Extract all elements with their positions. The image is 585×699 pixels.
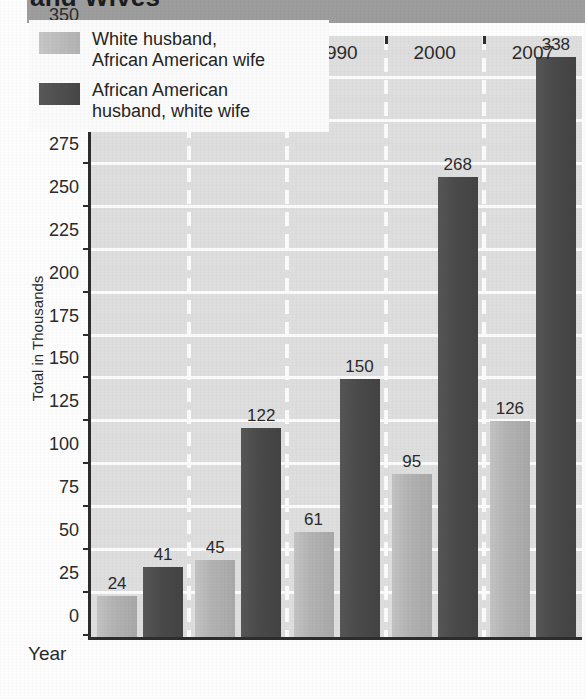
y-tick-mark [83,205,91,207]
gridline [91,248,582,251]
x-tick-mark [385,36,388,44]
group-separator [384,36,388,637]
y-tick-label: 250 [19,176,79,197]
bar: 126 [490,421,530,637]
y-tick-label: 75 [19,477,79,498]
bar: 122 [241,428,281,637]
bar: 24 [97,596,137,637]
legend-label: African American husband, white wife [92,80,250,122]
y-tick-label: 0 [19,606,79,627]
x-tick-label: 2007 [512,42,554,64]
y-tick-mark [83,162,91,164]
y-tick-label: 100 [19,434,79,455]
y-tick-mark [83,419,91,421]
x-axis-title: Year [28,643,66,665]
y-tick-label: 225 [19,219,79,240]
y-tick-label: 50 [19,520,79,541]
y-tick-label: 275 [19,133,79,154]
legend-item-african-american-husband: African American husband, white wife [39,80,319,122]
y-tick-mark [83,334,91,336]
legend: White husband, African American wife Afr… [29,20,329,132]
legend-item-white-husband: White husband, African American wife [39,29,319,71]
legend-swatch-icon-dark [39,83,80,105]
group-separator [482,36,486,637]
x-tick-label: 2000 [414,42,456,64]
y-tick-mark [83,291,91,293]
y-tick-label: 125 [19,391,79,412]
bar-value-label: 122 [247,406,275,426]
y-tick-mark [83,462,91,464]
bar-value-label: 150 [345,357,373,377]
bar-value-label: 45 [206,538,225,558]
y-tick-label: 200 [19,262,79,283]
gridline [91,376,582,379]
x-tick-mark [483,36,486,44]
bar: 61 [294,532,334,637]
bar-value-label: 61 [304,510,323,530]
y-tick-mark [83,548,91,550]
bar-value-label: 95 [402,452,421,472]
gridline [91,162,582,165]
gridline [91,334,582,337]
gridline [91,291,582,294]
bar-value-label: 24 [108,574,127,594]
bar: 150 [340,379,380,637]
y-tick-mark [83,591,91,593]
bar: 45 [195,560,235,637]
bar: 95 [392,474,432,637]
y-tick-mark [83,505,91,507]
y-tick-label: 25 [19,563,79,584]
legend-label: White husband, African American wife [92,29,265,71]
bar: 338 [536,57,576,637]
y-tick-label: 175 [19,305,79,326]
chart-figure: and Wives Total in Thousands 24414512261… [0,0,585,699]
y-tick-mark [83,634,91,636]
y-tick-mark [83,248,91,250]
y-tick-mark [83,376,91,378]
legend-swatch-icon-light [39,32,80,54]
y-tick-label: 150 [19,348,79,369]
bar-value-label: 268 [444,155,472,175]
gridline [91,205,582,208]
bar-value-label: 41 [154,545,173,565]
bar-value-label: 126 [496,399,524,419]
bar: 41 [143,567,183,637]
bar: 268 [438,177,478,637]
